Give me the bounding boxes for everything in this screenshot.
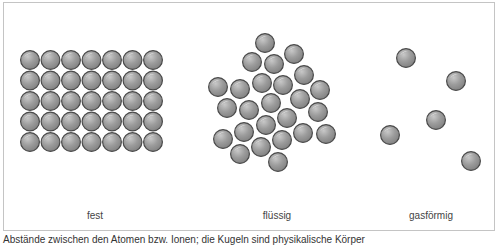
particle-sphere	[82, 71, 101, 90]
particle-sphere	[214, 130, 233, 149]
particle-sphere	[62, 51, 81, 70]
particle-sphere	[291, 90, 310, 109]
liquid-particles	[209, 34, 336, 172]
particle-sphere	[123, 92, 142, 111]
particle-sphere	[295, 66, 314, 85]
particle-sphere	[278, 109, 297, 128]
particle-sphere	[144, 71, 163, 90]
particle-sphere	[62, 92, 81, 111]
particle-sphere	[317, 125, 336, 144]
particle-sphere	[82, 112, 101, 131]
particle-sphere	[269, 153, 288, 172]
particle-sphere	[231, 145, 250, 164]
particle-sphere	[82, 92, 101, 111]
particle-sphere	[21, 92, 40, 111]
particle-sphere	[240, 101, 259, 120]
particle-sphere	[123, 112, 142, 131]
particle-sphere	[144, 92, 163, 111]
particle-sphere	[62, 112, 81, 131]
solid-particles	[21, 51, 163, 152]
particle-sphere	[462, 152, 481, 171]
particle-sphere	[62, 71, 81, 90]
particle-sphere	[82, 51, 101, 70]
particle-sphere	[309, 103, 328, 122]
particle-sphere	[62, 133, 81, 152]
particle-sphere	[252, 138, 271, 157]
particle-sphere	[273, 131, 292, 150]
particle-sphere	[447, 72, 466, 91]
particle-sphere	[144, 51, 163, 70]
particle-sphere	[257, 116, 276, 135]
particle-sphere	[21, 51, 40, 70]
label-liquid: flüssig	[263, 210, 291, 221]
particle-sphere	[41, 133, 60, 152]
particle-sphere	[41, 71, 60, 90]
particle-sphere	[103, 92, 122, 111]
particle-sphere	[103, 71, 122, 90]
gas-particles	[381, 49, 481, 171]
particle-sphere	[294, 124, 313, 143]
particle-sphere	[381, 126, 400, 145]
particle-sphere	[103, 51, 122, 70]
particle-sphere	[427, 111, 446, 130]
particle-sphere	[41, 112, 60, 131]
particle-sphere	[397, 49, 416, 68]
particle-sphere	[209, 78, 228, 97]
particle-sphere	[41, 92, 60, 111]
particle-sphere	[274, 76, 293, 95]
particle-sphere	[123, 133, 142, 152]
particle-sphere	[218, 99, 237, 118]
particle-sphere	[265, 55, 284, 74]
particle-sphere	[21, 133, 40, 152]
particle-sphere	[311, 81, 330, 100]
particle-sphere	[21, 112, 40, 131]
figure-caption: Abstände zwischen den Atomen bzw. Ionen;…	[3, 234, 365, 245]
particle-sphere	[262, 94, 281, 113]
particle-sphere	[144, 112, 163, 131]
particle-sphere	[103, 133, 122, 152]
particle-sphere	[253, 74, 272, 93]
particle-sphere	[144, 133, 163, 152]
particle-sphere	[243, 53, 262, 72]
particle-sphere	[82, 133, 101, 152]
particle-sphere	[41, 51, 60, 70]
particle-sphere	[231, 80, 250, 99]
particle-sphere	[235, 123, 254, 142]
particle-sphere	[21, 71, 40, 90]
label-gas: gasförmig	[409, 210, 453, 221]
particle-sphere	[285, 45, 304, 64]
particle-sphere	[123, 51, 142, 70]
label-solid: fest	[87, 210, 103, 221]
particle-sphere	[103, 112, 122, 131]
particle-sphere	[256, 34, 275, 53]
particle-sphere	[123, 71, 142, 90]
